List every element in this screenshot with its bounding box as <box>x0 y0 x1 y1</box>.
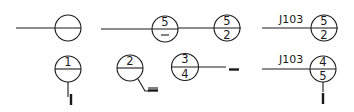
callout-symbol-5-2: 5 2 <box>178 14 241 42</box>
callout-symbol-empty <box>16 15 81 41</box>
section-symbol-2: 2 <box>117 54 158 91</box>
sheet-number-bottom: 5 <box>319 69 326 83</box>
section-number-top: 2 <box>126 54 133 68</box>
sheet-number-bottom: 4 <box>181 67 188 81</box>
detail-number-top: 5 <box>320 14 327 28</box>
detail-number-top: 3 <box>181 52 188 66</box>
sheet-number-bottom: 2 <box>320 28 327 42</box>
reference-label: J103 <box>278 53 303 66</box>
detail-number-top: 5 <box>223 14 230 28</box>
detail-number-top: 4 <box>319 55 326 69</box>
callout-symbol-5-dash: 5 <box>101 15 178 42</box>
leader-line <box>138 79 149 91</box>
callout-symbols-canvas: 5 5 2 J103 5 2 1 2 3 4 <box>0 0 354 112</box>
sheet-number-bottom: 2 <box>223 28 230 42</box>
callout-symbol-j103-5-2: J103 5 2 <box>262 13 338 42</box>
sheet-number-top: 5 <box>161 15 168 29</box>
section-symbol-j103-4-5: J103 4 5 <box>262 53 336 104</box>
reference-label: J103 <box>278 13 303 26</box>
section-number-top: 1 <box>64 55 71 69</box>
section-symbol-1: 1 <box>55 55 81 105</box>
section-symbol-3-4: 3 4 <box>172 52 240 81</box>
